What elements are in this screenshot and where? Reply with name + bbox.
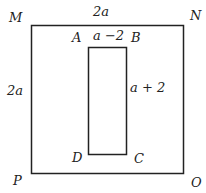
label-a: A	[72, 31, 81, 44]
outer-top-length: 2a	[93, 5, 109, 18]
label-n: N	[190, 9, 201, 22]
label-m: M	[9, 11, 22, 24]
label-o: O	[191, 176, 202, 189]
label-p: P	[13, 174, 22, 187]
label-c: C	[134, 152, 144, 165]
label-b: B	[131, 31, 141, 44]
outer-left-length: 2a	[7, 84, 23, 97]
inner-top-length: a −2	[93, 29, 124, 42]
label-d: D	[72, 151, 82, 164]
inner-right-length: a + 2	[130, 81, 165, 94]
inner-rectangle-abcd	[89, 48, 127, 155]
